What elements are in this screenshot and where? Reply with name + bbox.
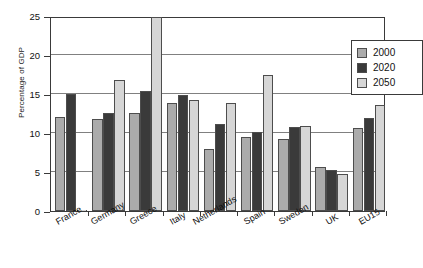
bar — [353, 128, 363, 211]
bar-group — [167, 18, 199, 211]
y-axis-tick — [44, 134, 50, 135]
bar — [315, 167, 325, 211]
legend-label-2050: 2050 — [373, 78, 395, 88]
legend-swatch-2020 — [357, 63, 367, 73]
y-axis-tick — [44, 56, 50, 57]
bar — [375, 105, 385, 211]
legend-swatch-2000 — [357, 48, 367, 58]
legend-swatch-2050 — [357, 78, 367, 88]
bar — [204, 149, 214, 211]
bar — [263, 75, 273, 211]
x-axis-label: UK — [324, 212, 340, 227]
y-axis-tick-label: 25 — [6, 11, 40, 22]
x-axis-tick — [386, 211, 387, 216]
x-axis-label: Italy — [168, 210, 187, 227]
bar — [278, 139, 288, 211]
legend: 2000 2020 2050 — [351, 40, 423, 95]
legend-label-2000: 2000 — [373, 48, 395, 58]
bar — [55, 117, 65, 211]
bar — [300, 126, 310, 211]
legend-item: 2000 — [357, 45, 417, 60]
bar-group — [55, 18, 87, 211]
bar — [114, 80, 124, 211]
bar — [92, 119, 102, 211]
bar-group — [129, 18, 161, 211]
y-axis-tick — [44, 17, 50, 18]
bar — [289, 127, 299, 211]
bar — [103, 113, 113, 211]
bar-group — [315, 18, 347, 211]
bar — [129, 113, 139, 211]
y-axis-tick — [44, 173, 50, 174]
bar — [337, 174, 347, 211]
legend-item: 2050 — [357, 75, 417, 90]
legend-label-2020: 2020 — [373, 63, 395, 73]
bar — [189, 100, 199, 211]
bar-group — [92, 18, 124, 211]
bar — [241, 137, 251, 211]
y-axis-tick — [44, 212, 50, 213]
bar — [66, 94, 76, 211]
y-axis-tick-label: 20 — [6, 50, 40, 61]
y-axis-tick — [44, 95, 50, 96]
bar-group — [278, 18, 310, 211]
bar — [178, 95, 188, 211]
bar-group — [204, 18, 236, 211]
bar — [364, 118, 374, 211]
y-axis-tick-label: 0 — [6, 206, 40, 217]
y-axis-tick-label: 10 — [6, 128, 40, 139]
legend-item: 2020 — [357, 60, 417, 75]
bar-group — [241, 18, 273, 211]
bar — [151, 17, 161, 211]
plot-area: 2000 2020 2050 — [50, 17, 385, 212]
bar — [326, 170, 336, 211]
bar — [140, 91, 150, 211]
x-axis-labels: FranceGermanyGreeceItalyNetherlandsSpain… — [50, 214, 385, 268]
bar — [167, 103, 177, 211]
y-axis-tick-label: 5 — [6, 167, 40, 178]
bar — [252, 132, 262, 211]
y-axis-tick-label: 15 — [6, 89, 40, 100]
